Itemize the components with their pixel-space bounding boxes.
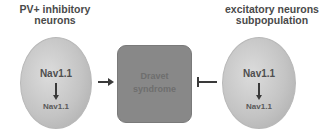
left-nav-top-label: Nav1.1 xyxy=(21,68,91,79)
right-title-line2: subpopulation xyxy=(213,15,331,26)
right-node-title: excitatory neurons subpopulation xyxy=(213,4,331,26)
right-nav-top-label: Nav1.1 xyxy=(223,68,295,79)
right-neuron-ellipse: Nav1.1 Nav1.1 xyxy=(222,37,296,129)
inhibition-line xyxy=(198,81,217,83)
left-title-line2: neurons xyxy=(10,15,100,26)
box-line1: Dravet xyxy=(118,70,191,83)
left-node-title: PV+ inhibitory neurons xyxy=(10,4,100,26)
box-label: Dravet syndrome xyxy=(118,70,191,96)
left-neuron-ellipse: Nav1.1 Nav1.1 xyxy=(20,37,92,129)
left-nav-bottom-label: Nav1.1 xyxy=(21,102,91,111)
dravet-syndrome-box: Dravet syndrome xyxy=(117,45,192,123)
activation-arrow-icon xyxy=(108,78,114,86)
right-nav-bottom-label: Nav1.1 xyxy=(223,102,295,111)
box-line2: syndrome xyxy=(118,83,191,96)
left-down-arrow-icon xyxy=(55,83,57,96)
right-down-arrow-icon xyxy=(258,83,260,96)
